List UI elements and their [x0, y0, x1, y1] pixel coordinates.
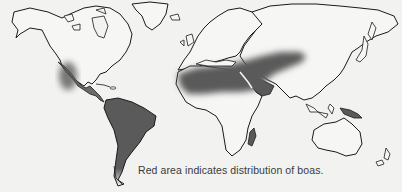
map-caption: Red area indicates distribution of boas.	[138, 164, 324, 176]
greenland-outline	[132, 2, 168, 30]
new-zealand-outline	[376, 148, 390, 166]
madagascar-outline	[248, 128, 256, 146]
new-guinea-outline	[340, 108, 362, 118]
australia-outline	[312, 118, 362, 156]
